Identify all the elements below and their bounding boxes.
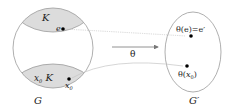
label-k: K bbox=[41, 12, 50, 23]
label-e: e bbox=[56, 24, 61, 33]
label-theta: θ bbox=[130, 49, 135, 59]
point-e bbox=[61, 27, 65, 31]
label-theta-e: θ(e)=e′ bbox=[176, 25, 205, 34]
set-g-prime-outline bbox=[165, 12, 221, 92]
label-g-prime: G′ bbox=[189, 95, 200, 106]
point-theta-e bbox=[189, 34, 193, 38]
label-g: G bbox=[34, 95, 42, 106]
label-x0k: x0 K bbox=[34, 72, 53, 84]
label-theta-x0: θ(x0) bbox=[178, 70, 197, 80]
homomorphism-diagram: K e x0 K x0 G θ θ(e)=e′ θ(x0) G′ bbox=[0, 0, 230, 109]
coset-x0k-region bbox=[1, 64, 105, 109]
coset-k-region bbox=[5, 0, 101, 32]
point-theta-x0 bbox=[185, 64, 189, 68]
set-g bbox=[1, 0, 105, 109]
